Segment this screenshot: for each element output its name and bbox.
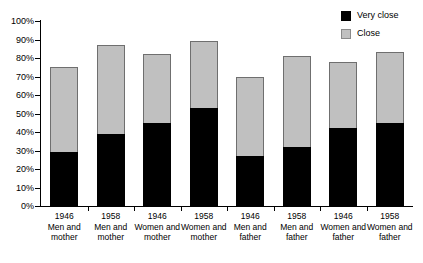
bar-segment-close <box>143 54 171 122</box>
x-axis-group: Women and father <box>367 222 413 243</box>
y-axis-tick-label: 30% <box>16 146 34 156</box>
x-axis-group: Men and father <box>227 222 273 243</box>
bar-segment-close <box>236 77 264 157</box>
x-axis-group: Men and father <box>274 222 320 243</box>
black-square-icon <box>341 11 351 21</box>
y-axis-tick-label: 100% <box>11 16 34 26</box>
x-axis-tick-mark <box>134 207 135 211</box>
y-axis-tick-label: 50% <box>16 109 34 119</box>
bar-segment-very-close <box>97 134 125 206</box>
x-axis-year: 1946 <box>227 211 273 222</box>
x-axis-tick-mark <box>367 207 368 211</box>
bar-segment-close <box>376 52 404 122</box>
x-axis-category-label: 1946Men and father <box>227 211 273 243</box>
bar-segment-close <box>97 45 125 134</box>
x-axis-tick-mark <box>88 207 89 211</box>
x-axis-category-label: 1946Women and mother <box>134 211 180 243</box>
y-axis: 0%10%20%30%40%50%60%70%80%90%100% <box>0 14 40 212</box>
x-axis-tick-mark <box>320 207 321 211</box>
x-axis-tick-mark <box>227 207 228 211</box>
x-axis-year: 1958 <box>367 211 413 222</box>
bar-segment-very-close <box>190 108 218 206</box>
y-axis-tick-label: 40% <box>16 127 34 137</box>
y-axis-tick-label: 90% <box>16 35 34 45</box>
x-axis-category-label: 1958Women and father <box>367 211 413 243</box>
x-axis-group: Women and father <box>320 222 366 243</box>
bar-group <box>97 45 125 206</box>
x-axis-category-label: 1946Women and father <box>320 211 366 243</box>
x-axis-labels: 1946Men and mother1958Men and mother1946… <box>41 211 413 263</box>
bar-segment-very-close <box>283 147 311 206</box>
x-axis-category-label: 1946Men and mother <box>41 211 87 243</box>
bar-group <box>329 62 357 206</box>
y-axis-tick-label: 70% <box>16 72 34 82</box>
x-axis-category-label: 1958Men and mother <box>88 211 134 243</box>
bar-group <box>376 52 404 206</box>
x-axis-category-label: 1958Men and father <box>274 211 320 243</box>
bar-segment-close <box>283 56 311 147</box>
x-axis-year: 1946 <box>134 211 180 222</box>
bar-segment-close <box>329 62 357 129</box>
x-axis-year: 1946 <box>320 211 366 222</box>
x-axis-category-label: 1958Women and mother <box>181 211 227 243</box>
y-axis-tick-label: 10% <box>16 183 34 193</box>
bar-group <box>236 77 264 206</box>
bar-segment-very-close <box>143 123 171 206</box>
y-axis-tick-label: 20% <box>16 164 34 174</box>
stacked-bar-chart: Very close Close 0%10%20%30%40%50%60%70%… <box>0 0 423 263</box>
bar-segment-close <box>50 67 78 152</box>
plot-area <box>41 21 413 206</box>
bar-group <box>50 67 78 206</box>
bar-segment-very-close <box>376 123 404 206</box>
legend-item-label: Very close <box>357 10 399 21</box>
y-axis-tick-label: 0% <box>21 201 34 211</box>
bar-segment-very-close <box>50 152 78 206</box>
bar-segment-close <box>190 41 218 108</box>
x-axis-group: Women and mother <box>134 222 180 243</box>
x-axis-year: 1946 <box>41 211 87 222</box>
y-axis-tick-label: 60% <box>16 90 34 100</box>
x-axis-tick-mark <box>181 207 182 211</box>
bar-segment-very-close <box>236 156 264 206</box>
x-axis-group: Men and mother <box>41 222 87 243</box>
x-axis-group: Men and mother <box>88 222 134 243</box>
bar-group <box>283 56 311 206</box>
x-axis-year: 1958 <box>274 211 320 222</box>
x-axis-year: 1958 <box>181 211 227 222</box>
bar-segment-very-close <box>329 128 357 206</box>
y-axis-tick-label: 80% <box>16 53 34 63</box>
x-axis-year: 1958 <box>88 211 134 222</box>
x-axis-group: Women and mother <box>181 222 227 243</box>
x-axis-tick-mark <box>274 207 275 211</box>
bar-group <box>190 41 218 206</box>
bar-group <box>143 54 171 206</box>
